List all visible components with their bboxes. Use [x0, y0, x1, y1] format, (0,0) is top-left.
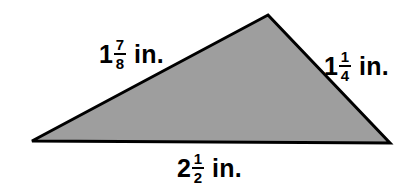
left-numerator: 7 — [115, 37, 126, 53]
base-whole-number: 2 — [177, 156, 191, 181]
base-numerator: 1 — [193, 151, 204, 167]
base-unit: in. — [212, 156, 242, 181]
left-fraction: 7 8 — [114, 37, 126, 72]
side-label-left: 1 7 8 in. — [99, 37, 164, 72]
base-fraction: 1 2 — [192, 151, 204, 186]
left-unit: in. — [134, 42, 164, 67]
right-unit: in. — [359, 54, 389, 79]
right-denominator: 4 — [340, 67, 351, 83]
right-numerator: 1 — [340, 49, 351, 65]
left-whole-number: 1 — [99, 42, 113, 67]
right-whole-number: 1 — [324, 54, 338, 79]
left-denominator: 8 — [115, 55, 126, 71]
right-fraction: 1 4 — [339, 49, 351, 84]
side-label-right: 1 1 4 in. — [324, 49, 389, 84]
base-denominator: 2 — [193, 169, 204, 185]
triangle-diagram: 1 7 8 in. 1 1 4 in. 2 1 2 in. — [0, 0, 414, 186]
side-label-base: 2 1 2 in. — [177, 151, 242, 186]
